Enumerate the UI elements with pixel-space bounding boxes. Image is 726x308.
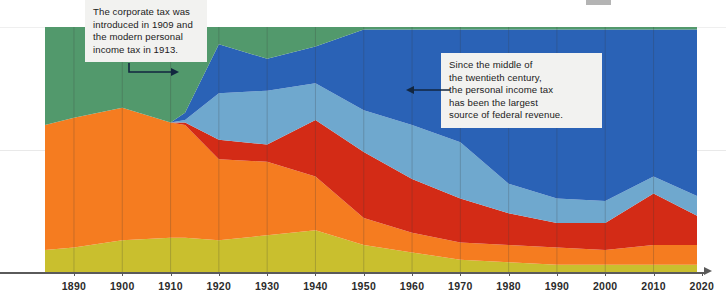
x-axis-line	[0, 272, 706, 274]
x-tick-label: 2020	[690, 280, 715, 292]
x-tick	[654, 272, 655, 276]
x-tick-label: 1970	[448, 280, 473, 292]
annotation-callout-corporate-tax: The corporate tax was introduced in 1909…	[85, 0, 207, 62]
x-tick	[219, 272, 220, 276]
x-tick-label: 1980	[496, 280, 521, 292]
x-tick	[267, 272, 268, 276]
x-tick-label: 1920	[207, 280, 232, 292]
x-tick	[557, 272, 558, 276]
x-tick-label: 2010	[641, 280, 666, 292]
x-tick-label: 1950	[351, 280, 376, 292]
x-tick-label: 1940	[303, 280, 328, 292]
x-tick	[315, 272, 316, 276]
x-tick-label: 1910	[158, 280, 183, 292]
x-tick	[122, 272, 123, 276]
chart-figure: 1890190019101920193019401950196019701980…	[0, 0, 726, 308]
annotation-arrow-left-icon	[405, 84, 451, 96]
annotation-arrow-right-icon	[128, 62, 180, 78]
x-tick-label: 1960	[400, 280, 425, 292]
x-tick	[702, 272, 703, 276]
x-tick	[364, 272, 365, 276]
x-axis-arrow-icon	[704, 267, 712, 275]
x-tick-label: 1890	[62, 280, 87, 292]
x-tick	[74, 272, 75, 276]
x-tick-label: 1990	[545, 280, 570, 292]
x-tick	[509, 272, 510, 276]
annotation-callout-income-tax: Since the middle of the twentieth centur…	[441, 53, 602, 128]
x-tick-label: 2000	[593, 280, 618, 292]
x-tick-label: 1930	[255, 280, 280, 292]
x-tick	[460, 272, 461, 276]
x-tick	[605, 272, 606, 276]
x-tick	[171, 272, 172, 276]
x-tick	[412, 272, 413, 276]
x-tick-label: 1900	[110, 280, 135, 292]
